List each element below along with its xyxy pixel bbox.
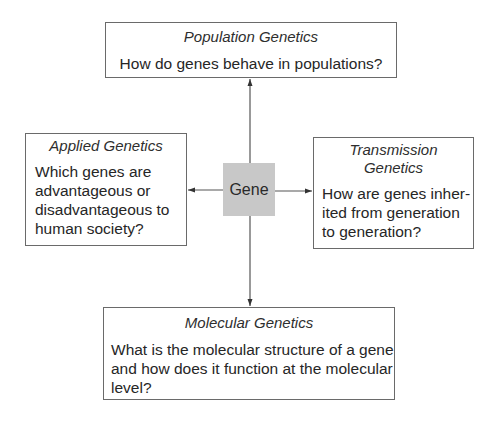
title-line: Genetics	[314, 159, 473, 177]
applied-genetics-question: Which genes are advantageous or disadvan…	[26, 162, 186, 238]
question-line: How do genes behave in populations?	[106, 54, 396, 73]
population-genetics-title: Population Genetics	[106, 28, 396, 46]
applied-genetics-title: Applied Genetics	[26, 137, 186, 155]
transmission-genetics-title: Transmission Genetics	[314, 141, 473, 177]
question-line: advantageous or	[35, 181, 186, 200]
population-genetics-box: Population Genetics How do genes behave …	[105, 22, 397, 78]
gene-center-node: Gene	[223, 163, 275, 216]
applied-genetics-box: Applied Genetics Which genes are advanta…	[25, 133, 187, 246]
transmission-genetics-box: Transmission Genetics How are genes inhe…	[313, 137, 474, 249]
question-line: Which genes are	[35, 162, 186, 181]
question-line: ited from generation	[322, 203, 473, 222]
question-line: level?	[111, 378, 394, 397]
question-line: human society?	[35, 219, 186, 238]
molecular-genetics-box: Molecular Genetics What is the molecular…	[103, 307, 395, 400]
question-line: How are genes inher-	[322, 184, 473, 203]
gene-label: Gene	[229, 181, 268, 199]
title-line: Transmission	[314, 141, 473, 159]
question-line: and how does it function at the molecula…	[111, 359, 394, 378]
population-genetics-question: How do genes behave in populations?	[106, 54, 396, 73]
molecular-genetics-question: What is the molecular structure of a gen…	[104, 340, 394, 397]
question-line: disadvantageous to	[35, 200, 186, 219]
transmission-genetics-question: How are genes inher- ited from generatio…	[314, 184, 473, 241]
molecular-genetics-title: Molecular Genetics	[104, 314, 394, 332]
question-line: What is the molecular structure of a gen…	[111, 340, 394, 359]
question-line: to generation?	[322, 222, 473, 241]
